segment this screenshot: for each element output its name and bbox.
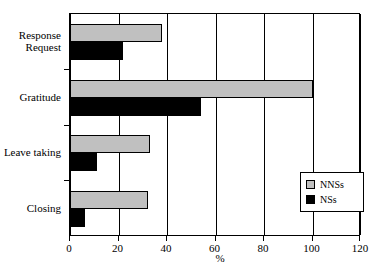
y-category-label-2: Leave taking xyxy=(4,146,61,158)
bar-nnss-1 xyxy=(70,80,313,98)
bar-nnss-0 xyxy=(70,24,162,42)
chart-legend: NNSs NSs xyxy=(300,172,364,212)
gridline-80 xyxy=(264,14,265,235)
caption-strip xyxy=(0,263,380,271)
y-category-label-line: Closing xyxy=(27,202,61,214)
y-category-label-line: Response xyxy=(19,29,61,41)
legend-item-nns: NNSs xyxy=(306,177,359,192)
bar-nss-3 xyxy=(70,209,85,227)
bar-nss-0 xyxy=(70,42,123,60)
x-tick-100 xyxy=(312,236,313,241)
legend-label-nns: NNSs xyxy=(320,179,344,190)
y-category-label-line: Gratitude xyxy=(19,91,61,103)
x-tick-80 xyxy=(263,236,264,241)
black-swatch-icon xyxy=(306,195,315,204)
bar-chart-figure: ResponseRequestGratitudeLeave takingClos… xyxy=(0,0,380,271)
y-category-label-0: ResponseRequest xyxy=(19,29,61,53)
gridline-40 xyxy=(167,14,168,235)
y-axis-category-labels: ResponseRequestGratitudeLeave takingClos… xyxy=(0,13,65,236)
y-category-label-3: Closing xyxy=(27,202,61,214)
legend-label-ns: NSs xyxy=(320,194,337,205)
legend-item-ns: NSs xyxy=(306,192,359,207)
x-tick-120 xyxy=(359,236,360,241)
x-tick-40 xyxy=(166,236,167,241)
gray-swatch-icon xyxy=(306,180,315,189)
bar-nss-2 xyxy=(70,153,97,171)
x-tick-20 xyxy=(118,236,119,241)
bar-nss-1 xyxy=(70,98,201,116)
y-category-label-line: Request xyxy=(19,41,61,53)
bar-nnss-3 xyxy=(70,191,148,209)
gridline-60 xyxy=(216,14,217,235)
bar-nnss-2 xyxy=(70,135,150,153)
y-category-label-line: Leave taking xyxy=(4,146,61,158)
x-tick-60 xyxy=(215,236,216,241)
y-category-label-1: Gratitude xyxy=(19,91,61,103)
x-tick-0 xyxy=(69,236,70,241)
